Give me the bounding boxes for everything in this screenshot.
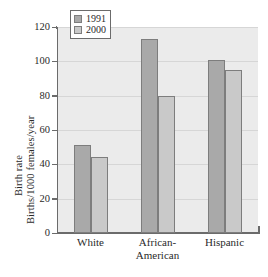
y-axis-ticks: 020406080100120	[0, 0, 50, 240]
legend-label-2000: 2000	[86, 25, 106, 35]
y-tick-label: 20	[4, 194, 50, 204]
x-category-label: Hispanic	[205, 236, 244, 249]
x-category-label: White	[77, 236, 104, 249]
y-tick-label: 120	[4, 22, 50, 32]
legend-item-1991: 1991	[74, 14, 106, 24]
x-category-label-line-2: American	[136, 249, 179, 262]
bar-white-1991	[74, 145, 91, 233]
x-axis-category-labels: WhiteAfrican-AmericanHispanic	[57, 236, 260, 276]
x-category-label-line-1: African-	[136, 236, 179, 249]
bar-chart-figure: Birth rate Births/1000 females/year 0204…	[0, 0, 268, 277]
y-tick-label: 40	[4, 159, 50, 169]
legend-swatch-icon-1991	[74, 15, 82, 23]
y-tick-label: 0	[4, 228, 50, 238]
x-category-label: African-American	[136, 236, 179, 261]
x-axis-right-cap	[258, 226, 260, 233]
bar-hispanic-2000	[225, 70, 242, 233]
x-category-label-line-1: Hispanic	[205, 236, 244, 249]
legend: 1991 2000	[70, 10, 111, 39]
bar-white-2000	[91, 157, 108, 233]
y-tick-label: 80	[4, 91, 50, 101]
y-tick-label: 100	[4, 56, 50, 66]
y-tick-label: 60	[4, 125, 50, 135]
bar-hispanic-1991	[208, 60, 225, 233]
bars-layer	[57, 27, 258, 233]
x-category-label-line-1: White	[77, 236, 104, 249]
bar-african-american-2000	[158, 96, 175, 233]
bar-african-american-1991	[141, 39, 158, 233]
legend-swatch-icon-2000	[74, 26, 82, 34]
legend-item-2000: 2000	[74, 25, 106, 35]
legend-label-1991: 1991	[86, 14, 106, 24]
